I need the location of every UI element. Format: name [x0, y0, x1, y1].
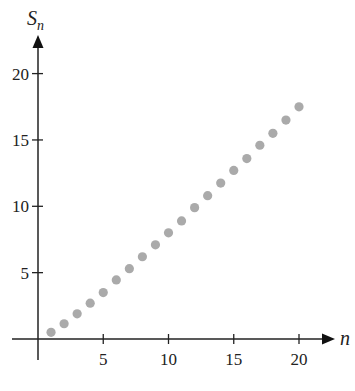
- data-point: [229, 166, 238, 175]
- data-point: [151, 240, 160, 249]
- x-tick-label: 10: [160, 350, 177, 369]
- data-point: [112, 275, 121, 284]
- x-tick-label: 5: [99, 350, 108, 369]
- y-tick-label: 10: [12, 197, 29, 216]
- x-axis-arrow-icon: [322, 334, 335, 345]
- data-point: [216, 178, 225, 187]
- x-tick-label: 20: [291, 350, 308, 369]
- data-points: [46, 102, 303, 337]
- scatter-chart: 5101520 5101520 n Sn: [0, 0, 355, 391]
- data-point: [46, 328, 55, 337]
- data-point: [177, 216, 186, 225]
- data-point: [125, 264, 134, 273]
- data-point: [86, 299, 95, 308]
- y-axis-arrow-icon: [33, 35, 44, 48]
- y-axis-label: Sn: [27, 7, 44, 33]
- y-tick-label: 5: [21, 264, 30, 283]
- data-point: [190, 203, 199, 212]
- data-point: [164, 228, 173, 237]
- data-point: [294, 102, 303, 111]
- data-point: [138, 252, 147, 261]
- axes: [12, 35, 335, 360]
- data-point: [203, 191, 212, 200]
- x-axis-label: n: [340, 327, 350, 349]
- data-point: [60, 319, 69, 328]
- data-point: [73, 309, 82, 318]
- x-tick-label: 15: [225, 350, 242, 369]
- y-tick-label: 15: [12, 131, 29, 150]
- data-point: [242, 154, 251, 163]
- data-point: [281, 115, 290, 124]
- y-tick-label: 20: [12, 65, 29, 84]
- data-point: [268, 129, 277, 138]
- data-point: [99, 288, 108, 297]
- data-point: [255, 141, 264, 150]
